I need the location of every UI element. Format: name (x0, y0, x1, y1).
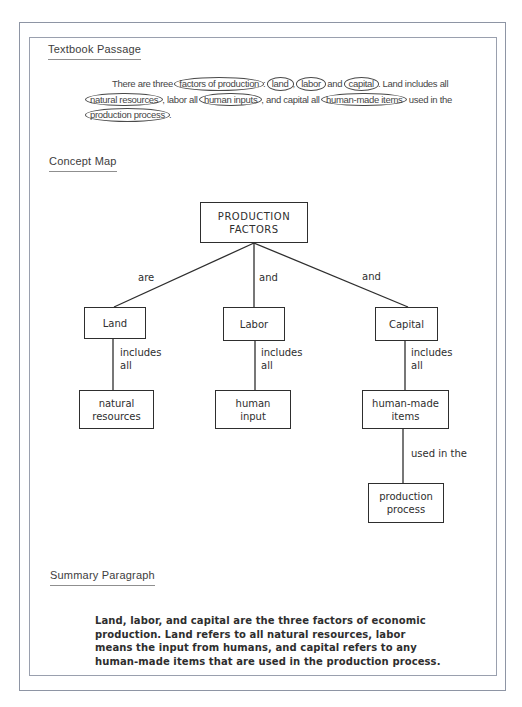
summary-line: Land, labor, and capital are the three f… (95, 614, 441, 628)
passage-segment: used in the (406, 94, 452, 105)
edge-label-includes-all-capital: includes all (411, 346, 452, 372)
passage-segment: . Land includes all (378, 78, 448, 89)
edge-label-used-in-the: used in the (411, 447, 467, 460)
summary-paragraph-text: Land, labor, and capital are the three f… (95, 614, 441, 668)
passage-line: production process. (86, 107, 490, 123)
circled-term-human-inputs: human inputs (199, 93, 262, 107)
textbook-passage-text: There are three factors of production: l… (86, 76, 490, 123)
node-land: Land (84, 307, 146, 339)
node-labor: Labor (223, 307, 285, 341)
edge-label-are: are (138, 271, 154, 284)
summary-line: human-made items that are used in the pr… (95, 655, 441, 669)
edge-label-and-middle: and (259, 271, 278, 284)
circled-term-production-process: production process (85, 108, 170, 122)
edge-label-includes-all-labor: includes all (261, 346, 302, 372)
scanned-page: Textbook Passage There are three factors… (0, 0, 522, 707)
passage-segment: There are three (112, 78, 175, 89)
passage-line: There are three factors of production: l… (86, 76, 490, 92)
node-production-process: production process (368, 483, 444, 523)
node-human-made-items: human-made items (362, 390, 449, 429)
passage-segment: and (325, 78, 345, 89)
node-natural-resources: natural resources (79, 390, 154, 429)
node-capital: Capital (375, 307, 438, 341)
circled-term-human-made-items: human-made items (321, 93, 408, 107)
passage-segment: , labor all (162, 94, 200, 105)
circled-term-labor: labor (296, 77, 326, 91)
passage-segment: , and capital all (261, 94, 322, 105)
textbook-passage-heading: Textbook Passage (48, 43, 141, 60)
edge-label-and-right: and (362, 270, 381, 283)
circled-term-factors-of-production: factors of production (174, 77, 264, 91)
node-production-factors: PRODUCTION FACTORS (200, 202, 308, 243)
edge-label-includes-all-land: includes all (120, 346, 161, 372)
summary-line: production. Land refers to all natural r… (95, 628, 441, 642)
concept-map-heading: Concept Map (49, 155, 117, 172)
summary-paragraph-heading: Summary Paragraph (50, 569, 155, 586)
circled-term-land: land (267, 77, 294, 91)
passage-line: natural resources, labor all human input… (86, 92, 490, 108)
node-human-input: human input (215, 390, 291, 429)
circled-term-natural-resources: natural resources (85, 93, 163, 107)
summary-line: means the input from humans, and capital… (95, 641, 441, 655)
circled-term-capital: capital (344, 77, 379, 91)
passage-segment: . (169, 109, 171, 120)
